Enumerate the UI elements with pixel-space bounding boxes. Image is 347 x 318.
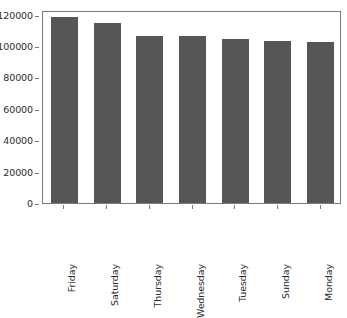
y-axis-tick-mark bbox=[35, 47, 39, 48]
y-axis-tick-label: 20000 bbox=[3, 168, 33, 178]
x-axis-tick-label: Friday bbox=[67, 264, 77, 292]
x-axis-tick-mark bbox=[63, 205, 64, 209]
y-axis-tick-mark bbox=[35, 78, 39, 79]
x-axis-tick-mark bbox=[192, 205, 193, 209]
x-axis-tick-label: Wednesday bbox=[196, 264, 206, 318]
y-axis-tick-mark bbox=[35, 16, 39, 17]
x-axis-tick-mark bbox=[320, 205, 321, 209]
bar bbox=[51, 17, 78, 203]
y-axis-tick-label: 60000 bbox=[3, 105, 33, 115]
x-axis-tick-label: Sunday bbox=[281, 264, 291, 299]
x-axis: FridaySaturdayThursdayWednesdayTuesdaySu… bbox=[0, 204, 347, 273]
plot-area bbox=[42, 11, 341, 204]
y-axis-tick-mark bbox=[35, 141, 39, 142]
y-axis-tick-mark bbox=[35, 110, 39, 111]
y-axis-tick-label: 40000 bbox=[3, 136, 33, 146]
y-axis-tick-label: 120000 bbox=[0, 11, 33, 21]
x-axis-tick-mark bbox=[149, 205, 150, 209]
bar bbox=[264, 41, 291, 203]
bar bbox=[136, 36, 163, 203]
x-axis-tick-mark bbox=[277, 205, 278, 209]
y-axis-tick-mark bbox=[35, 173, 39, 174]
bar bbox=[94, 23, 121, 203]
bar bbox=[222, 39, 249, 203]
y-axis-tick-label: 80000 bbox=[3, 74, 33, 84]
x-axis-tick-mark bbox=[234, 205, 235, 209]
x-axis-tick-label: Tuesday bbox=[238, 264, 248, 302]
y-axis-tick-label: 100000 bbox=[0, 42, 33, 52]
x-axis-tick-label: Thursday bbox=[153, 264, 163, 307]
bar bbox=[307, 42, 334, 203]
x-axis-tick-mark bbox=[106, 205, 107, 209]
x-axis-tick-label: Monday bbox=[324, 264, 334, 301]
bar bbox=[179, 36, 206, 203]
x-axis-tick-label: Saturday bbox=[110, 264, 120, 306]
